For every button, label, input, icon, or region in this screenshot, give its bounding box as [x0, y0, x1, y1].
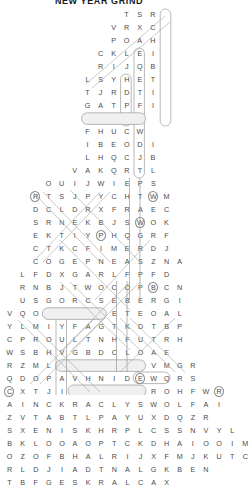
grid-cell[interactable]: D: [68, 203, 81, 216]
grid-cell[interactable]: A: [55, 372, 68, 385]
grid-cell[interactable]: K: [121, 320, 134, 333]
grid-cell[interactable]: I: [82, 307, 95, 320]
grid-cell[interactable]: B: [42, 281, 55, 294]
grid-cell[interactable]: I: [68, 177, 81, 190]
grid-cell[interactable]: D: [160, 411, 173, 424]
grid-cell[interactable]: F: [160, 229, 173, 242]
grid-cell[interactable]: C: [239, 450, 252, 463]
grid-cell[interactable]: X: [16, 385, 29, 398]
grid-cell[interactable]: S: [134, 398, 147, 411]
grid-cell[interactable]: H: [160, 437, 173, 450]
grid-cell[interactable]: A: [173, 437, 186, 450]
grid-cell[interactable]: F: [108, 203, 121, 216]
grid-cell[interactable]: A: [3, 398, 16, 411]
grid-cell[interactable]: N: [108, 463, 121, 476]
grid-cell[interactable]: A: [68, 437, 81, 450]
grid-cell[interactable]: T: [107, 99, 120, 112]
grid-cell[interactable]: S: [147, 177, 160, 190]
grid-cell[interactable]: Y: [94, 190, 107, 203]
grid-cell[interactable]: V: [16, 411, 29, 424]
grid-cell[interactable]: A: [173, 255, 186, 268]
grid-cell[interactable]: B: [121, 294, 134, 307]
grid-cell[interactable]: J: [68, 190, 81, 203]
grid-cell[interactable]: H: [108, 333, 121, 346]
grid-cell[interactable]: O: [42, 255, 55, 268]
grid-cell[interactable]: K: [199, 450, 212, 463]
grid-cell[interactable]: F: [121, 268, 134, 281]
grid-cell[interactable]: X: [147, 411, 160, 424]
grid-cell[interactable]: J: [120, 60, 133, 73]
grid-cell[interactable]: M: [29, 320, 42, 333]
grid-cell[interactable]: R: [147, 294, 160, 307]
grid-cell[interactable]: L: [134, 463, 147, 476]
grid-cell[interactable]: K: [82, 424, 95, 437]
grid-cell[interactable]: E: [147, 203, 160, 216]
grid-cell[interactable]: O: [160, 385, 173, 398]
grid-cell[interactable]: I: [108, 372, 121, 385]
grid-cell[interactable]: T: [29, 385, 42, 398]
grid-cell[interactable]: Z: [3, 411, 16, 424]
grid-cell[interactable]: L: [108, 398, 121, 411]
grid-cell[interactable]: A: [68, 463, 81, 476]
grid-cell[interactable]: G: [68, 268, 81, 281]
grid-cell[interactable]: E: [121, 177, 134, 190]
grid-cell[interactable]: N: [173, 281, 186, 294]
grid-cell[interactable]: N: [42, 307, 55, 320]
grid-cell[interactable]: E: [107, 138, 120, 151]
grid-cell[interactable]: O: [29, 307, 42, 320]
grid-cell[interactable]: O: [42, 333, 55, 346]
grid-cell[interactable]: E: [121, 359, 134, 372]
grid-cell[interactable]: K: [16, 437, 29, 450]
grid-cell[interactable]: N: [107, 112, 120, 125]
grid-cell[interactable]: X: [16, 424, 29, 437]
grid-cell[interactable]: F: [81, 242, 94, 255]
grid-cell[interactable]: A: [133, 34, 146, 47]
grid-cell[interactable]: V: [107, 21, 120, 34]
grid-cell[interactable]: Q: [107, 164, 120, 177]
grid-cell[interactable]: T: [95, 463, 108, 476]
grid-cell[interactable]: G: [147, 463, 160, 476]
grid-cell[interactable]: C: [108, 281, 121, 294]
grid-cell[interactable]: O: [147, 216, 160, 229]
grid-cell[interactable]: Y: [3, 320, 16, 333]
grid-cell[interactable]: L: [81, 151, 94, 164]
grid-cell[interactable]: B: [146, 151, 159, 164]
grid-cell[interactable]: I: [173, 294, 186, 307]
grid-cell[interactable]: U: [107, 125, 120, 138]
grid-cell[interactable]: M: [173, 450, 186, 463]
grid-cell[interactable]: H: [146, 34, 159, 47]
grid-cell[interactable]: E: [133, 73, 146, 86]
grid-cell[interactable]: U: [134, 333, 147, 346]
grid-cell[interactable]: X: [94, 203, 107, 216]
grid-cell[interactable]: J: [42, 463, 55, 476]
grid-cell[interactable]: I: [94, 112, 107, 125]
grid-cell[interactable]: W: [3, 346, 16, 359]
grid-cell[interactable]: A: [108, 411, 121, 424]
grid-cell[interactable]: E: [134, 385, 147, 398]
grid-cell[interactable]: D: [134, 320, 147, 333]
grid-cell[interactable]: Q: [16, 307, 29, 320]
grid-cell[interactable]: O: [3, 450, 16, 463]
grid-cell[interactable]: T: [147, 320, 160, 333]
grid-cell[interactable]: V: [68, 164, 81, 177]
grid-cell[interactable]: P: [95, 411, 108, 424]
grid-cell[interactable]: K: [81, 216, 94, 229]
grid-cell[interactable]: U: [134, 411, 147, 424]
grid-cell[interactable]: Z: [16, 359, 29, 372]
grid-cell[interactable]: H: [94, 125, 107, 138]
grid-cell[interactable]: B: [94, 138, 107, 151]
grid-cell[interactable]: A: [199, 398, 212, 411]
grid-cell[interactable]: T: [121, 307, 134, 320]
grid-cell[interactable]: P: [134, 268, 147, 281]
grid-cell[interactable]: A: [81, 268, 94, 281]
grid-cell[interactable]: H: [95, 424, 108, 437]
grid-cell[interactable]: R: [94, 60, 107, 73]
grid-cell[interactable]: I: [121, 450, 134, 463]
grid-cell[interactable]: O: [55, 437, 68, 450]
grid-cell[interactable]: I: [146, 138, 159, 151]
grid-cell[interactable]: A: [108, 476, 121, 489]
grid-cell[interactable]: W: [81, 281, 94, 294]
grid-cell[interactable]: S: [95, 307, 108, 320]
grid-cell[interactable]: C: [147, 424, 160, 437]
grid-cell[interactable]: L: [82, 411, 95, 424]
